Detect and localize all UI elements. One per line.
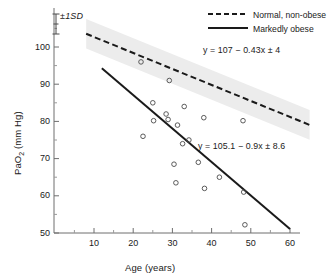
scatter-point [151,118,156,123]
y-tick-label: 60 [26,191,50,200]
scatter-point [164,112,169,117]
x-tick-label: 10 [82,239,106,248]
scatter-point [151,101,156,106]
scatter-point [174,181,179,186]
scatter-point [180,141,185,146]
y-axis-title-sub: 2 [18,152,25,156]
scatter-point [243,223,248,228]
y-tick-label: 70 [26,154,50,163]
y-tick-label: 100 [26,43,50,52]
scatter-point [217,175,222,180]
sd-band-normal [86,19,309,140]
sd-annotation: ±1SD [60,11,83,21]
x-tick-label: 20 [121,239,145,248]
y-axis-title-main: PaO [12,156,23,175]
scatter-point [182,104,187,109]
equation-normal: y = 107 − 0.43x ± 4 [203,45,280,55]
legend-label-obese: Markedly obese [253,24,314,34]
x-axis-title: Age (years) [125,262,175,273]
x-tick-label: 30 [160,239,184,248]
y-tick-label: 90 [26,80,50,89]
y-tick-label: 80 [26,117,50,126]
x-tick-label: 40 [200,239,224,248]
scatter-point [202,115,207,120]
x-tick-label: 60 [278,239,302,248]
scatter-point [166,117,171,122]
x-axis-ticks [74,228,290,233]
scatter-point [202,186,207,191]
scatter-point [196,160,201,165]
equation-obese: y = 105.1 − 0.9x ± 8.6 [198,141,285,151]
x-tick-label: 50 [239,239,263,248]
scatter-point [175,123,180,128]
y-axis-title-unit: (mm Hg) [12,111,23,151]
scatter-point [141,134,146,139]
scatter-point [241,118,246,123]
legend-swatches [208,14,248,28]
legend-label-normal: Normal, non-obese [253,10,326,20]
scatter-point [172,162,177,167]
y-tick-label: 50 [26,229,50,238]
y-axis-title: PaO2 (mm Hg) [12,111,25,175]
y-axis-ticks [54,28,59,233]
